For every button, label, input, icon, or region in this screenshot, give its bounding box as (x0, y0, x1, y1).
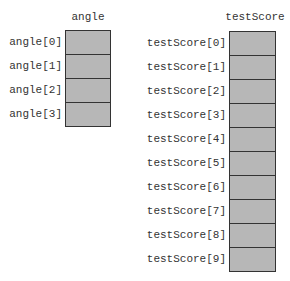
testscore-label-5: testScore[5] (140, 151, 226, 175)
testscore-label-6: testScore[6] (140, 175, 226, 199)
testscore-label-0: testScore[0] (140, 31, 226, 55)
testscore-label-4: testScore[4] (140, 127, 226, 151)
angle-cell (66, 55, 110, 79)
testscore-cell (230, 248, 275, 272)
testscore-label-9: testScore[9] (140, 247, 226, 271)
testscore-cell (230, 176, 275, 200)
testscore-label-2: testScore[2] (140, 79, 226, 103)
angle-label-2: angle[2] (0, 78, 62, 102)
testscore-memory-box (229, 31, 276, 272)
testscore-label-3: testScore[3] (140, 103, 226, 127)
testscore-cell (230, 224, 275, 248)
angle-cell (66, 79, 110, 103)
testscore-cell (230, 200, 275, 224)
angle-title: angle (65, 11, 111, 23)
testscore-label-1: testScore[1] (140, 55, 226, 79)
angle-label-3: angle[3] (0, 102, 62, 126)
testscore-cell (230, 80, 275, 104)
angle-label-1: angle[1] (0, 54, 62, 78)
angle-cell (66, 31, 110, 55)
testscore-label-7: testScore[7] (140, 199, 226, 223)
testscore-label-8: testScore[8] (140, 223, 226, 247)
testscore-title: testScore (222, 11, 288, 23)
testscore-cell (230, 152, 275, 176)
angle-memory-box (65, 30, 111, 127)
testscore-cell (230, 104, 275, 128)
testscore-cell (230, 56, 275, 80)
testscore-cell (230, 128, 275, 152)
angle-label-0: angle[0] (0, 30, 62, 54)
testscore-cell (230, 32, 275, 56)
angle-cell (66, 103, 110, 127)
